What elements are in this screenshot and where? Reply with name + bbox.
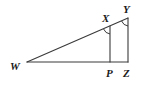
geometry-figure: W X Y P Z bbox=[0, 0, 145, 85]
vertex-label-p: P bbox=[106, 67, 113, 79]
vertex-label-x: X bbox=[101, 12, 110, 24]
geometry-canvas: W X Y P Z bbox=[0, 0, 145, 85]
angle-mark-y-icon bbox=[122, 21, 128, 26]
vertex-label-z: Z bbox=[122, 67, 130, 79]
angle-mark-x-icon bbox=[104, 29, 110, 34]
vertex-label-w: W bbox=[10, 60, 21, 72]
segment-WY bbox=[27, 18, 128, 62]
vertex-label-y: Y bbox=[123, 3, 131, 15]
